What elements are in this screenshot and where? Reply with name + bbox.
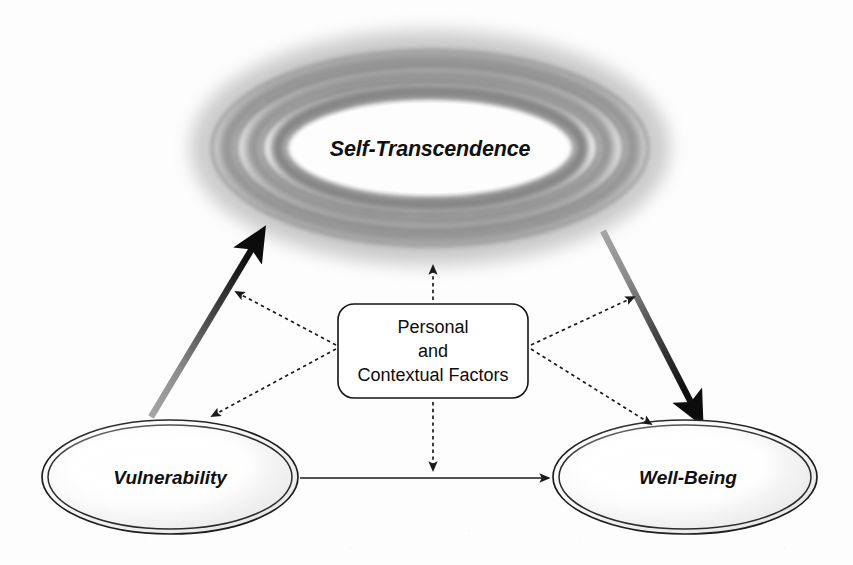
edge-vulnerability-to-self-transcendence[interactable] [151,232,262,417]
arrow-self-transcendence-to-well-being [603,231,700,420]
diagram-canvas: Self-Transcendence Vulnerability Well-Be… [0,0,853,565]
conceptual-model-diagram: Self-Transcendence Vulnerability Well-Be… [0,0,853,565]
factors-box-line-3: Contextual Factors [357,365,508,385]
well-being-ellipse-sheen [576,430,774,502]
node-factors-box[interactable]: Personal and Contextual Factors [338,304,528,398]
well-being-label: Well-Being [639,467,737,488]
arrow-vulnerability-to-self-transcendence [151,232,262,417]
node-vulnerability[interactable]: Vulnerability [42,420,298,534]
vulnerability-label: Vulnerability [113,467,228,488]
vulnerability-ellipse-sheen [64,430,256,502]
arrow-factors-to-vulnerability-path[interactable] [236,292,336,345]
node-well-being[interactable]: Well-Being [553,420,817,534]
factors-box-line-2: and [418,341,448,361]
factors-box-line-1: Personal [397,317,468,337]
edge-self-transcendence-to-well-being[interactable] [603,231,700,420]
node-self-transcendence[interactable]: Self-Transcendence [204,44,656,252]
arrow-factors-to-well-being[interactable] [531,349,651,424]
arrow-factors-to-well-being-path[interactable] [531,297,634,345]
arrow-factors-to-vulnerability[interactable] [212,349,336,416]
self-transcendence-label: Self-Transcendence [330,137,531,161]
